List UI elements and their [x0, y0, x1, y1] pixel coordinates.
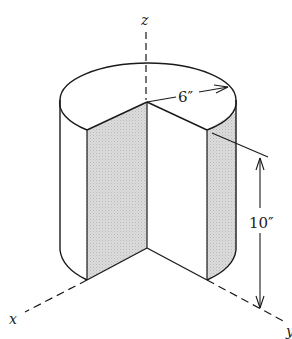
- left-outer-edge: [60, 100, 87, 280]
- x-axis: [25, 280, 87, 312]
- height-label: 10″: [249, 214, 274, 232]
- z-axis-label: z: [140, 12, 149, 28]
- radius-dimension-line-a: [147, 97, 176, 102]
- top-ellipse-arc: [60, 63, 237, 130]
- figure: z x y 6″ 10″: [0, 0, 292, 339]
- y-axis-label: y: [285, 323, 292, 339]
- y-axis: [207, 280, 287, 323]
- radius-label: 6″: [178, 88, 194, 106]
- top-right-cut-edge: [147, 102, 207, 130]
- cylinder-diagram: z x y 6″ 10″: [0, 0, 292, 339]
- bottom-right-edge: [147, 248, 207, 280]
- x-axis-label: x: [9, 311, 17, 327]
